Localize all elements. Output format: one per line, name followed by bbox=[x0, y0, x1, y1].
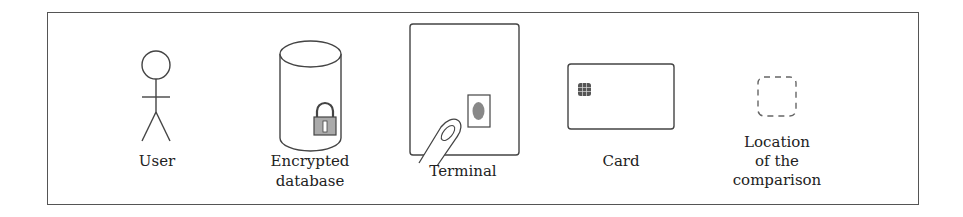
cylinder-with-padlock-icon bbox=[279, 40, 343, 152]
database-label-line-2: database bbox=[276, 175, 345, 188]
comparison-label-line-1: Location bbox=[744, 136, 810, 149]
user-label: User bbox=[139, 155, 175, 168]
dashed-rounded-square-icon bbox=[757, 76, 799, 118]
stick-figure-icon bbox=[136, 50, 176, 140]
fingerprint-sensor-icon bbox=[468, 95, 490, 127]
chip-icon bbox=[578, 83, 591, 96]
database-label-line-1: Encrypted bbox=[271, 155, 350, 168]
comparison-label-line-2: of the bbox=[755, 155, 799, 168]
chip-card-icon bbox=[567, 63, 677, 131]
card-label: Card bbox=[602, 155, 639, 168]
terminal-with-fingerprint-sensor-and-finger-icon bbox=[409, 23, 521, 163]
comparison-label-line-3: comparison bbox=[733, 174, 822, 187]
terminal-label: Terminal bbox=[429, 165, 496, 178]
